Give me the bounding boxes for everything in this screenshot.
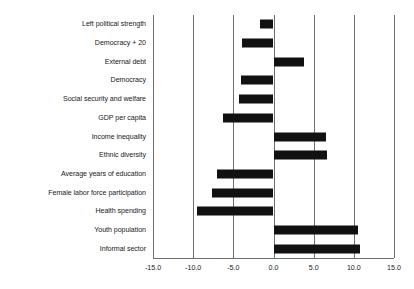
y-axis-label: Social security and welfare — [63, 95, 146, 103]
y-axis-label: Average years of education — [61, 170, 146, 178]
gridline-15 — [394, 15, 395, 258]
bar — [274, 132, 326, 141]
y-axis-label: GDP per capita — [98, 114, 146, 122]
bar — [217, 169, 273, 178]
x-axis-tick-label: 0.0 — [269, 263, 279, 273]
bar — [274, 151, 328, 160]
y-axis-label: Informal sector — [100, 245, 146, 253]
y-axis-label: Female labor force participation — [48, 189, 146, 197]
bar — [242, 39, 273, 48]
bar — [274, 57, 305, 66]
gridline--5 — [233, 15, 234, 258]
x-axis-tick-label: 10.0 — [347, 263, 361, 273]
y-axis-label: Democracy + 20 — [95, 39, 146, 47]
x-axis-tick-label: -15.0 — [145, 263, 161, 273]
gridline--10 — [193, 15, 194, 258]
bar — [197, 207, 273, 216]
y-axis-label: Income inequality — [92, 133, 146, 141]
x-axis-tick-label: 5.0 — [309, 263, 319, 273]
horizontal-bar-chart: Left political strengthDemocracy + 20Ext… — [0, 0, 414, 289]
plot-area — [153, 15, 394, 258]
y-axis-label: External debt — [105, 58, 146, 66]
y-axis-label: Ethnic diversity — [99, 151, 146, 159]
gridline-10 — [354, 15, 355, 258]
bar — [241, 76, 273, 85]
y-axis-label: Left political strength — [82, 20, 146, 28]
x-axis-tick-label: -10.0 — [185, 263, 201, 273]
y-axis-label: Health spending — [95, 207, 146, 215]
y-axis-label: Youth population — [94, 226, 146, 234]
bar — [212, 188, 273, 197]
x-axis-tick-label: 15.0 — [387, 263, 401, 273]
bar — [260, 20, 274, 29]
y-axis-label: Democracy — [111, 76, 146, 84]
gridline--15 — [153, 15, 154, 258]
bar — [223, 113, 274, 122]
bar — [274, 225, 358, 234]
x-axis-line — [153, 258, 394, 259]
bar — [239, 95, 274, 104]
x-axis-tick-label: -5.0 — [227, 263, 239, 273]
x-axis-tick-labels: -15.0-10.0-5.00.05.010.015.0 — [153, 263, 394, 275]
y-axis-category-labels: Left political strengthDemocracy + 20Ext… — [0, 15, 150, 258]
bar — [274, 244, 361, 253]
